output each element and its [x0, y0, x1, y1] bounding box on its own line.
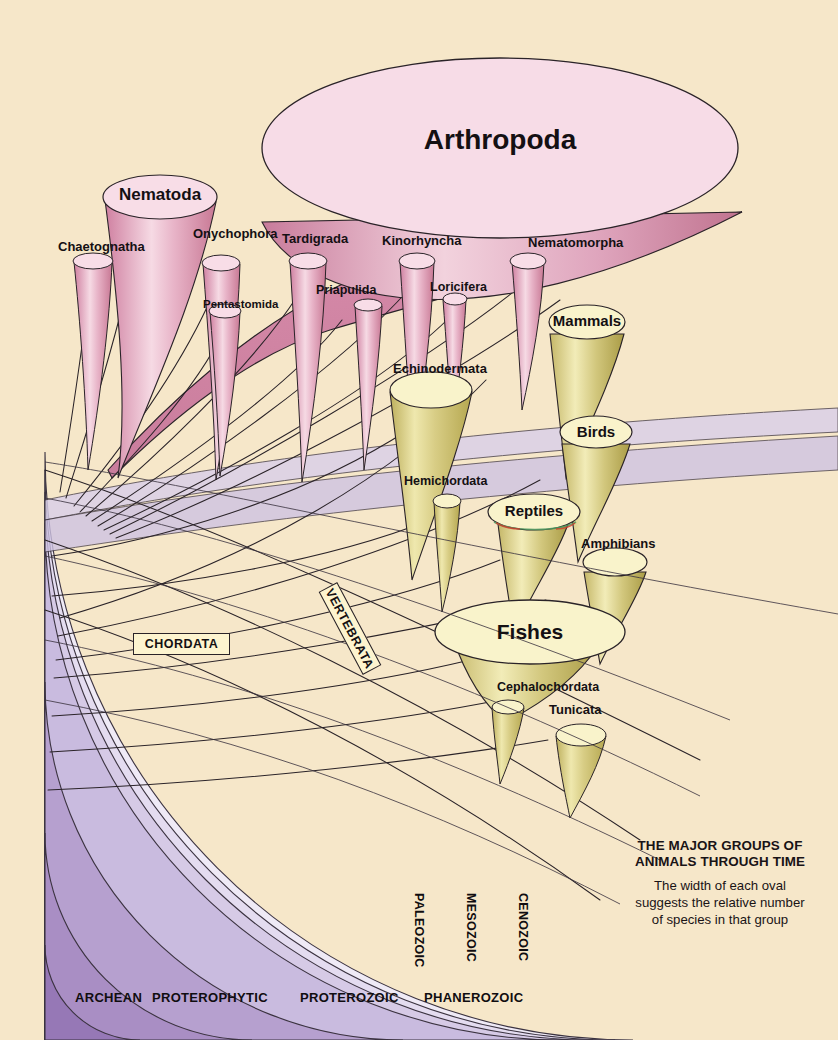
caption-title-line-1: THE MAJOR GROUPS OF — [604, 838, 836, 854]
era-label-mesozoic: MESOZOIC — [464, 893, 478, 962]
caption-body-line-1: The width of each oval — [604, 877, 836, 894]
clade-box-chordata[interactable]: CHORDATA — [133, 633, 230, 655]
caption-title-line-2: ANIMALS THROUGH TIME — [604, 854, 836, 870]
era-label-archean: ARCHEAN — [75, 990, 142, 1005]
caption-body-line-2: suggests the relative number — [604, 894, 836, 911]
diagram-root: Arthropoda Nematoda Chaetognatha Onychop… — [0, 0, 838, 1040]
era-label-proterozoic: PROTEROZOIC — [300, 990, 399, 1005]
era-label-proterophytic: PROTEROPHYTIC — [152, 990, 268, 1005]
caption-body-line-3: of species in that group — [604, 911, 836, 928]
era-label-paleozoic: PALEOZOIC — [412, 893, 426, 968]
era-label-phanerozoic: PHANEROZOIC — [424, 990, 523, 1005]
figure-caption: THE MAJOR GROUPS OF ANIMALS THROUGH TIME… — [604, 838, 836, 928]
era-label-cenozoic: CENOZOIC — [516, 893, 530, 961]
